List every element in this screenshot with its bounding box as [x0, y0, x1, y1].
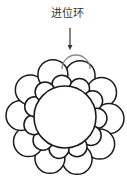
center-circle — [34, 86, 96, 148]
arrow-icon — [68, 28, 73, 50]
ring-diagram — [0, 0, 127, 177]
center-circle-shape — [34, 86, 96, 148]
